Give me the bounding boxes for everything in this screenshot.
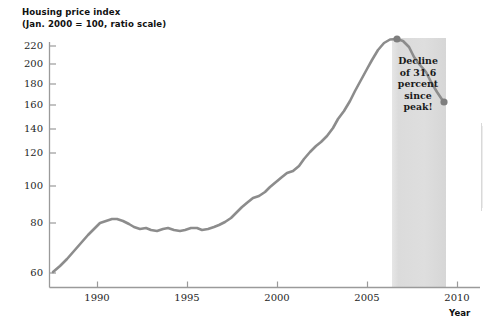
- y-tick-label-120: 120: [13, 148, 43, 158]
- x-tick-label-2010: 2010: [435, 293, 479, 303]
- y-tick-label-100: 100: [13, 181, 43, 191]
- page-edge-artifact-2: [482, 126, 483, 208]
- x-tick-label-2005: 2005: [345, 293, 389, 303]
- plot-canvas: [0, 0, 496, 324]
- callout-line-1: Decline: [391, 55, 445, 67]
- plot-area: [0, 0, 496, 324]
- housing-price-index-chart: Housing price index (Jan. 2000 = 100, ra…: [0, 0, 496, 324]
- y-tick-label-200: 200: [13, 59, 43, 69]
- y-tick-label-180: 180: [13, 79, 43, 89]
- callout-line-3: percent: [391, 78, 445, 90]
- x-tick-label-2000: 2000: [255, 293, 299, 303]
- callout-line-2: of 31.6: [391, 67, 445, 79]
- y-tick-label-140: 140: [13, 124, 43, 134]
- y-tick-marks: [50, 46, 57, 273]
- y-tick-label-60: 60: [13, 268, 43, 278]
- peak-marker: [393, 35, 400, 42]
- decline-callout: Decline of 31.6 percent since peak!: [391, 55, 445, 113]
- y-tick-label-220: 220: [13, 41, 43, 51]
- x-tick-label-1990: 1990: [75, 293, 119, 303]
- callout-line-4: since: [391, 90, 445, 102]
- callout-line-5: peak!: [391, 101, 445, 113]
- x-axis-title: Year: [449, 308, 470, 318]
- y-tick-label-160: 160: [13, 100, 43, 110]
- x-tick-label-1995: 1995: [165, 293, 209, 303]
- y-tick-label-80: 80: [13, 218, 43, 228]
- price-index-line: [53, 39, 443, 272]
